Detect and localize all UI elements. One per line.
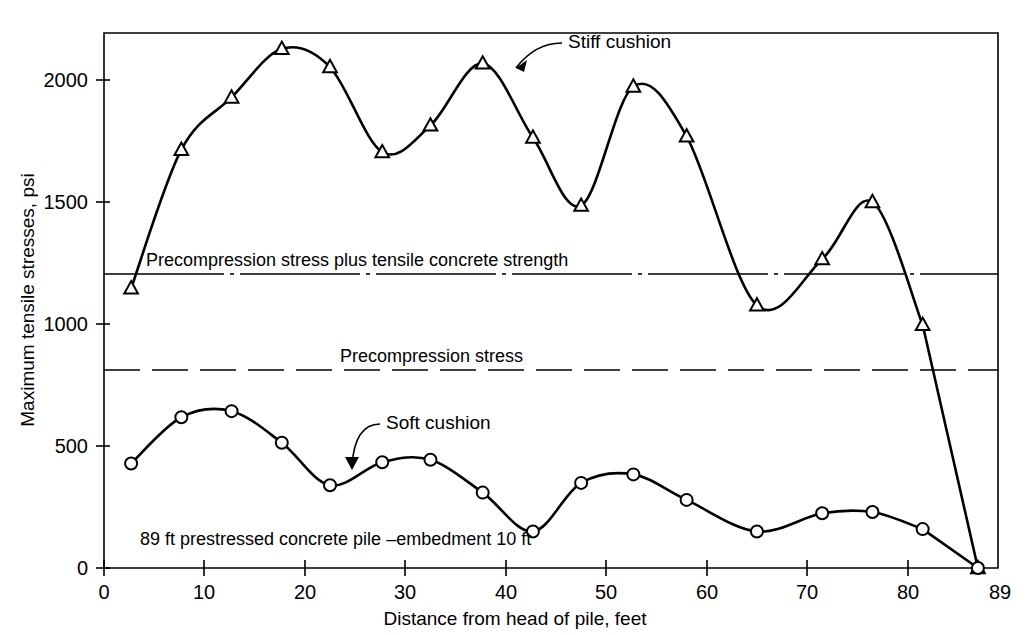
x-tick-label-30: 30 [394,581,416,603]
data-point [972,562,984,574]
x-tick-label-70: 70 [796,581,818,603]
x-tick-label-89: 89 [989,581,1011,603]
data-point [681,494,693,506]
data-point [575,477,587,489]
tensile-stress-chart: 0 500 1000 1500 2000 0 10 20 30 40 50 6 [0,0,1035,635]
y-axis-tick-labels: 0 500 1000 1500 2000 [44,69,89,579]
x-axis-title: Distance from head of pile, feet [384,608,648,629]
data-point [476,56,490,68]
x-tick-label-80: 80 [897,581,919,603]
data-point [916,318,930,330]
reference-line-2-label: Precompression stress [340,346,523,366]
x-tick-label-10: 10 [193,581,215,603]
reference-line-precompression-plus-tensile: Precompression stress plus tensile concr… [104,250,998,274]
annotation-stiff-cushion: Stiff cushion [516,31,671,72]
x-tick-label-20: 20 [294,581,316,603]
x-tick-label-60: 60 [696,581,718,603]
data-point [276,437,288,449]
y-tick-label-0: 0 [77,557,88,579]
x-tick-label-50: 50 [595,581,617,603]
data-point [477,487,489,499]
y-tick-label-1500: 1500 [44,191,89,213]
stiff-cushion-label: Stiff cushion [568,31,671,52]
figure-root: 0 500 1000 1500 2000 0 10 20 30 40 50 6 [0,0,1035,635]
data-point [175,143,189,155]
data-point [324,479,336,491]
data-point [175,411,187,423]
annotation-soft-cushion: Soft cushion [345,412,491,470]
series-stiff-cushion [124,42,984,574]
y-axis-ticks [96,80,110,568]
plot-frame [104,33,998,568]
stiff-cushion-curve [131,47,978,568]
data-point [124,281,138,293]
data-point [376,456,388,468]
reference-line-1-label: Precompression stress plus tensile concr… [146,250,568,270]
soft-cushion-label: Soft cushion [386,412,491,433]
soft-cushion-arrowhead [345,457,359,470]
data-point [751,526,763,538]
x-tick-label-40: 40 [495,581,517,603]
data-point [226,405,238,417]
x-tick-label-0: 0 [98,581,109,603]
x-axis-tick-labels: 0 10 20 30 40 50 60 70 80 89 [98,581,1011,603]
pile-note: 89 ft prestressed concrete pile –embedme… [140,529,531,549]
y-axis-title: Maximum tensile stresses, psi [17,173,38,426]
reference-line-precompression: Precompression stress [104,346,998,370]
stiff-cushion-markers [124,42,984,574]
y-tick-label-2000: 2000 [44,69,89,91]
data-point [627,468,639,480]
data-point [816,507,828,519]
data-point [866,506,878,518]
data-point [125,457,137,469]
y-tick-label-500: 500 [55,435,88,457]
data-point [917,523,929,535]
y-tick-label-1000: 1000 [44,313,89,335]
data-point [424,454,436,466]
data-point [680,129,694,141]
